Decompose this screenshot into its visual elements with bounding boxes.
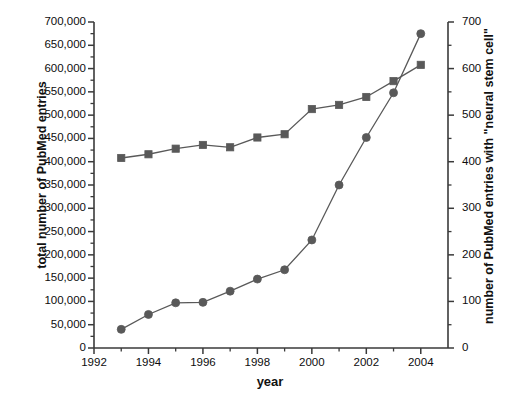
y-tick-label: 50,000 <box>10 319 86 331</box>
data-point <box>281 266 289 274</box>
y2-tick-label: 400 <box>462 156 481 168</box>
data-point <box>417 61 424 68</box>
y-tick-label: 100,000 <box>10 295 86 307</box>
series-line-1 <box>121 34 421 330</box>
y-tick-label: 300,000 <box>10 202 86 214</box>
data-point <box>227 144 234 151</box>
y2-tick-label: 100 <box>462 295 481 307</box>
x-tick-label: 1996 <box>173 357 233 369</box>
x-tick-label: 1994 <box>118 357 178 369</box>
y2-tick-label: 700 <box>462 16 481 28</box>
data-series-layer <box>117 30 425 334</box>
data-point <box>417 30 425 38</box>
data-point <box>172 299 180 307</box>
series-line-0 <box>121 65 421 158</box>
axis-lines <box>94 22 448 348</box>
data-point <box>145 151 152 158</box>
chart-figure: total number of PubMed entries number of… <box>0 0 529 404</box>
data-point <box>281 131 288 138</box>
y-tick-label: 450,000 <box>10 132 86 144</box>
data-point <box>226 287 234 295</box>
y-tick-label: 700,000 <box>10 16 86 28</box>
y-tick-label: 150,000 <box>10 272 86 284</box>
y-tick-label: 200,000 <box>10 249 86 261</box>
data-point <box>118 154 125 161</box>
right-axis-ticks <box>448 22 454 348</box>
left-axis-ticks <box>88 22 94 348</box>
data-point <box>308 105 315 112</box>
data-point <box>253 275 261 283</box>
x-tick-label: 1992 <box>64 357 124 369</box>
data-point <box>335 101 342 108</box>
y-tick-label: 500,000 <box>10 109 86 121</box>
data-point <box>390 78 397 85</box>
y-tick-label: 0 <box>10 342 86 354</box>
x-axis-ticks <box>94 348 421 354</box>
y-tick-label: 400,000 <box>10 156 86 168</box>
data-point <box>335 181 343 189</box>
data-point <box>308 236 316 244</box>
x-tick-label: 1998 <box>227 357 287 369</box>
data-point <box>172 145 179 152</box>
y2-tick-label: 600 <box>462 63 481 75</box>
y-tick-label: 650,000 <box>10 39 86 51</box>
y-tick-label: 250,000 <box>10 226 86 238</box>
data-point <box>199 298 207 306</box>
y2-tick-label: 500 <box>462 109 481 121</box>
y2-tick-label: 300 <box>462 202 481 214</box>
data-point <box>362 133 370 141</box>
data-point <box>363 93 370 100</box>
x-tick-label: 2004 <box>391 357 451 369</box>
data-point <box>390 89 398 97</box>
x-tick-label: 2000 <box>282 357 342 369</box>
y2-tick-label: 200 <box>462 249 481 261</box>
data-point <box>254 134 261 141</box>
y-tick-label: 600,000 <box>10 63 86 75</box>
y2-tick-label: 0 <box>462 342 468 354</box>
data-point <box>199 141 206 148</box>
data-point <box>117 325 125 333</box>
y-tick-label: 350,000 <box>10 179 86 191</box>
x-tick-label: 2002 <box>336 357 396 369</box>
data-point <box>144 310 152 318</box>
y-tick-label: 550,000 <box>10 86 86 98</box>
